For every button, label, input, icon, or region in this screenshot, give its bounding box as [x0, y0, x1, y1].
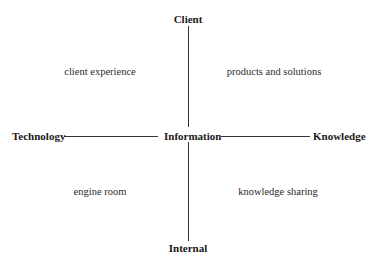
vertical-axis-lower-line: [188, 142, 189, 241]
center-label: Information: [164, 131, 221, 142]
quadrant-bottom-right-label: knowledge sharing: [238, 187, 318, 198]
axis-label-right: Knowledge: [313, 131, 366, 142]
vertical-axis-upper-line: [188, 26, 189, 127]
horizontal-axis-right-line: [221, 136, 310, 137]
quadrant-bottom-left-label: engine room: [74, 187, 127, 198]
axis-label-top: Client: [174, 14, 203, 25]
axis-label-bottom: Internal: [169, 243, 208, 254]
quadrant-top-left-label: client experience: [64, 67, 135, 78]
quadrant-top-right-label: products and solutions: [227, 67, 322, 78]
axis-label-left: Technology: [12, 131, 65, 142]
horizontal-axis-left-line: [64, 136, 158, 137]
